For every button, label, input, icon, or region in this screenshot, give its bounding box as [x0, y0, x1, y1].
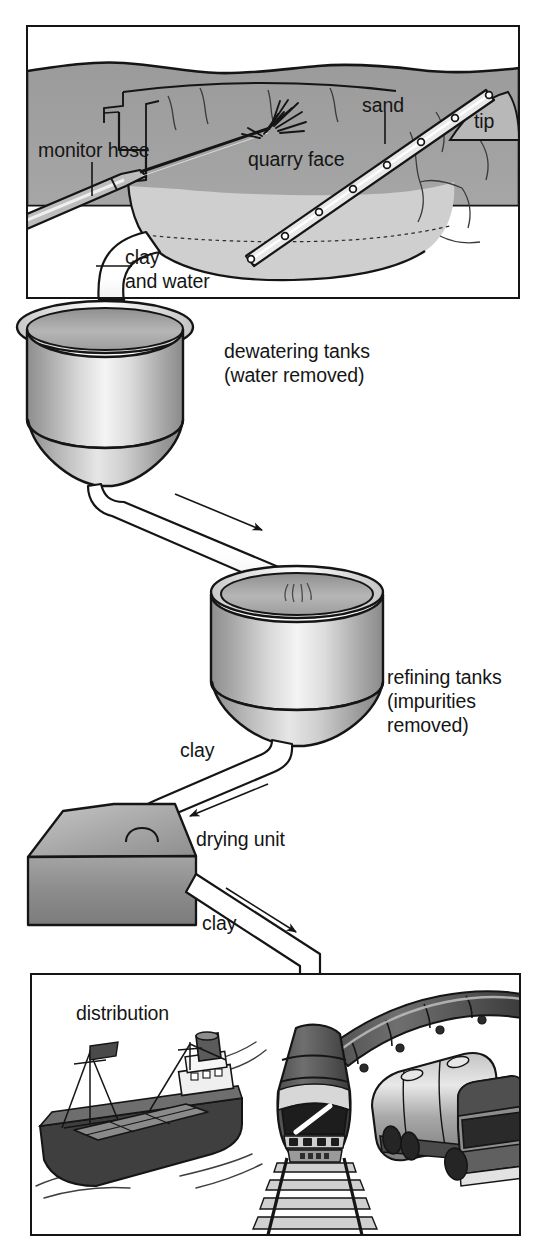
dewatering-tank: dewatering tanks (water removed): [17, 300, 370, 594]
label-clay-and-water-line1: clay: [125, 246, 160, 268]
drying-unit-front: [28, 856, 196, 925]
label-refining-line3: removed): [387, 714, 469, 736]
label-refining-line2: (impurities: [387, 690, 476, 712]
refining-tank: refining tanks (impurities removed) clay: [126, 566, 502, 842]
label-quarry-face: quarry face: [248, 148, 344, 170]
flow-arrow-dewatering-to-refining: [175, 494, 262, 530]
drying-unit-top: [28, 804, 196, 857]
label-clay-to-drying: clay: [180, 739, 215, 761]
label-dewatering-line1: dewatering tanks: [224, 340, 370, 362]
diagram-root: monitor hose quarry face sand tip clay a…: [0, 0, 547, 1255]
label-drying-unit: drying unit: [196, 828, 286, 850]
label-dewatering-line2: (water removed): [224, 364, 364, 386]
panel-distribution: distribution: [31, 974, 524, 1235]
refining-rim-inner: [221, 573, 373, 615]
process-flow-diagram: monitor hose quarry face sand tip clay a…: [0, 0, 547, 1255]
label-refining-line1: refining tanks: [387, 666, 502, 688]
label-monitor-hose: monitor hose: [38, 139, 150, 161]
label-sand: sand: [362, 94, 404, 116]
label-tip: tip: [474, 110, 495, 132]
label-clay-and-water-line2: and water: [125, 270, 210, 292]
locomotive-buffer: [288, 1150, 342, 1162]
dewatering-rim-inner: [27, 308, 183, 350]
label-distribution: distribution: [76, 1002, 169, 1024]
label-clay-to-distribution: clay: [202, 912, 237, 934]
panel-quarry: monitor hose quarry face sand tip clay a…: [27, 26, 519, 306]
